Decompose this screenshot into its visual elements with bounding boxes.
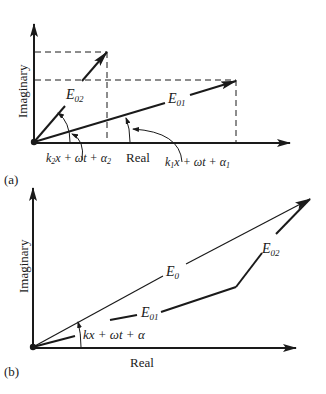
real-axis-label-a: Real xyxy=(126,150,150,165)
label-e01-a: E01 xyxy=(167,91,186,108)
panel-b: E0 E01 E02 kx + ωt + α Imaginary Real (b… xyxy=(4,188,310,379)
real-axis-label-b: Real xyxy=(130,355,154,370)
angle-label-b: kx + ωt + α xyxy=(83,327,146,342)
origin-dot-b xyxy=(30,344,36,350)
label-e0-b: E0 xyxy=(165,264,180,281)
panel-label-b: (b) xyxy=(4,364,19,379)
angle-label-2-a: k2x + ωt + α2 xyxy=(46,151,111,166)
imaginary-axis-label-a: Imaginary xyxy=(15,64,30,118)
phasor-diagram: E02 E01 Imaginary Real k2x + ωt + α2 k1x… xyxy=(0,0,326,394)
vector-e02-b xyxy=(236,199,310,287)
panel-a: E02 E01 Imaginary Real k2x + ωt + α2 k1x… xyxy=(4,24,290,187)
vector-e01-a xyxy=(34,81,236,142)
panel-label-a: (a) xyxy=(4,172,18,187)
angle-arc-b xyxy=(78,322,81,347)
label-e02-a: E02 xyxy=(65,87,84,104)
angle-label-1-a: k1x + ωt + α1 xyxy=(165,155,230,170)
angle-arc-2-a xyxy=(58,113,70,142)
label-e01-b: E01 xyxy=(140,305,159,322)
imaginary-axis-label-b: Imaginary xyxy=(16,239,31,293)
angle-arc-1-a xyxy=(126,118,130,142)
label-e02-b: E02 xyxy=(261,241,280,258)
origin-dot-a xyxy=(31,139,37,145)
